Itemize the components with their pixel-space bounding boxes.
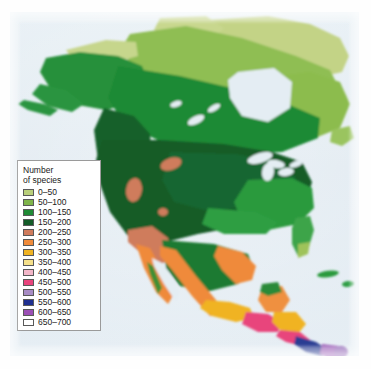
legend-label: 450–500 [38,277,71,287]
legend-entry: 400–450 [23,267,96,277]
map-panel: Number of species 0–5050–100100–150150–2… [10,12,359,356]
legend-box: Number of species 0–5050–100100–150150–2… [17,160,101,331]
legend-swatch [23,249,34,256]
legend-swatch [23,299,34,306]
region-florida-tip [298,242,310,258]
legend-entry: 550–600 [23,297,96,307]
legend-entry: 350–400 [23,257,96,267]
legend-entry: 600–650 [23,307,96,317]
legend-swatch [23,319,34,326]
legend-swatch [23,239,34,246]
legend-swatch [23,199,34,206]
legend-swatch [23,279,34,286]
legend-swatch [23,269,34,276]
legend-label: 250–300 [38,237,71,247]
legend-label: 650–700 [38,317,71,327]
legend-swatch [23,309,34,316]
legend-label: 150–200 [38,217,71,227]
legend-label: 500–550 [38,287,71,297]
legend-entry: 500–550 [23,287,96,297]
legend-entry: 50–100 [23,197,96,207]
legend-title: Number of species [23,165,96,185]
legend-label: 550–600 [38,297,71,307]
legend-label: 600–650 [38,307,71,317]
legend-swatch [23,189,34,196]
legend-label: 350–400 [38,257,71,267]
legend-label: 200–250 [38,227,71,237]
legend-swatch [23,289,34,296]
legend-entry-list: 0–5050–100100–150150–200200–250250–30030… [23,187,96,327]
legend-swatch [23,259,34,266]
legend-entry: 450–500 [23,277,96,287]
legend-entry: 250–300 [23,237,96,247]
legend-label: 0–50 [38,187,57,197]
legend-swatch [23,219,34,226]
legend-entry: 100–150 [23,207,96,217]
legend-label: 300–350 [38,247,71,257]
legend-swatch [23,229,34,236]
legend-label: 400–450 [38,267,71,277]
legend-entry: 650–700 [23,317,96,327]
legend-swatch [23,209,34,216]
legend-entry: 0–50 [23,187,96,197]
legend-entry: 200–250 [23,227,96,237]
legend-label: 50–100 [38,197,66,207]
caribbean-islands [317,269,355,287]
legend-entry: 150–200 [23,217,96,227]
figure-page: Number of species 0–5050–100100–150150–2… [0,0,371,369]
legend-label: 100–150 [38,207,71,217]
legend-entry: 300–350 [23,247,96,257]
